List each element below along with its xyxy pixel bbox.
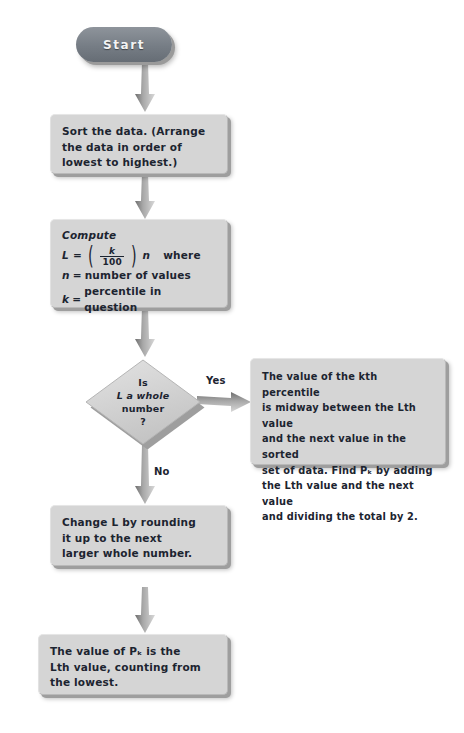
edge-label-no: No — [154, 466, 170, 477]
arrow-start-to-sort — [132, 62, 158, 114]
final-result-line-1: The value of Pₖ is the — [50, 644, 216, 660]
final-result-line-2: Lth value, counting from — [50, 660, 216, 676]
round-up-line-2: it up to the next — [62, 531, 216, 547]
node-final-result[interactable]: The value of Pₖ is the Lth value, counti… — [38, 634, 228, 695]
node-compute-formula: L = ( k 100 ) n where — [62, 246, 216, 267]
decision-line-4: ? — [140, 415, 146, 428]
formula-multiplier: n — [142, 248, 150, 264]
yes-result-line-2: is midway between the Lth value — [262, 400, 434, 431]
node-compute-definition-k: k = percentile in question — [62, 284, 216, 315]
decision-line-2: L a whole — [117, 389, 170, 402]
decision-line-3: number — [122, 402, 165, 415]
formula-equals: = — [73, 248, 82, 264]
formula-right-paren: ) — [131, 247, 137, 265]
node-decision[interactable]: Is L a whole number ? — [84, 357, 202, 445]
formula-left-paren: ( — [88, 247, 94, 265]
definition-k-equals: = — [72, 292, 81, 308]
node-compute[interactable]: Compute L = ( k 100 ) n where n = number… — [50, 219, 228, 308]
flowchart-canvas: Start Sort the data. (Arrange the data i… — [0, 0, 464, 733]
final-result-line-3: the lowest. — [50, 675, 216, 691]
yes-result-line-6: and dividing the total by 2. — [262, 509, 434, 525]
yes-result-line-3: and the next value in the sorted — [262, 431, 434, 462]
node-round-up[interactable]: Change L by rounding it up to the next l… — [50, 505, 228, 566]
formula-denominator: 100 — [100, 256, 123, 267]
formula-numerator: k — [107, 246, 117, 256]
edge-label-yes: Yes — [206, 375, 226, 386]
formula-where: where — [163, 248, 201, 264]
round-up-line-3: larger whole number. — [62, 546, 216, 562]
definition-n-text: number of values — [85, 268, 191, 284]
definition-n-symbol: n — [62, 268, 70, 284]
definition-k-text: percentile in question — [84, 284, 216, 315]
node-sort-line-3: lowest to highest.) — [62, 155, 216, 171]
definition-n-equals: = — [73, 268, 82, 284]
yes-result-line-5: the Lth value and the next value — [262, 478, 434, 509]
definition-k-symbol: k — [62, 292, 69, 308]
yes-result-line-4: set of data. Find Pₖ by adding — [262, 463, 434, 479]
node-compute-definition-n: n = number of values — [62, 268, 216, 284]
node-sort-data[interactable]: Sort the data. (Arrange the data in orde… — [50, 114, 228, 174]
formula-fraction: k 100 — [100, 246, 123, 267]
decision-line-1: Is — [138, 376, 148, 389]
arrow-round-to-final — [132, 587, 158, 635]
node-yes-result[interactable]: The value of the kth percentile is midwa… — [250, 358, 446, 465]
node-sort-line-2: the data in order of — [62, 140, 216, 156]
node-sort-line-1: Sort the data. (Arrange — [62, 124, 216, 140]
round-up-line-1: Change L by rounding — [62, 515, 216, 531]
arrow-sort-to-compute — [132, 173, 158, 221]
node-compute-heading: Compute — [62, 228, 216, 244]
node-start[interactable]: Start — [76, 27, 172, 62]
node-decision-text: Is L a whole number ? — [84, 357, 202, 447]
yes-result-line-1: The value of the kth percentile — [262, 369, 434, 400]
formula-lhs: L — [62, 248, 69, 264]
node-start-label: Start — [103, 38, 145, 52]
